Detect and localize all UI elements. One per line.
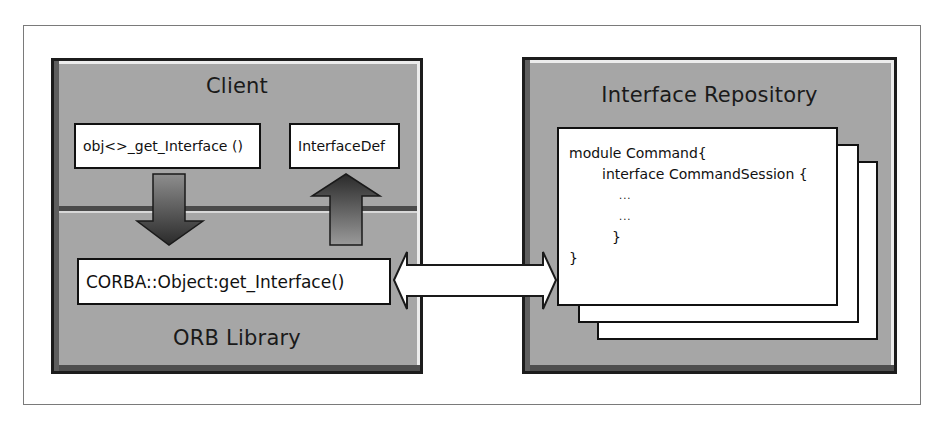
- code-line: ...: [569, 185, 836, 206]
- corba-object-box: CORBA::Object:get_Interface(): [77, 258, 391, 305]
- interface-def-box: InterfaceDef: [289, 123, 400, 169]
- interface-repository-panel: Interface Repository module Command{ int…: [522, 57, 897, 374]
- code-line: module Command{: [569, 143, 836, 164]
- get-interface-call-box: obj<>_get_Interface (): [74, 123, 261, 169]
- code-line: }: [569, 248, 836, 269]
- client-panel: Client obj<>_get_Interface () InterfaceD…: [51, 58, 423, 374]
- idl-page-front: module Command{ interface CommandSession…: [557, 127, 838, 306]
- interface-repository-title: Interface Repository: [525, 83, 894, 107]
- client-orb-divider: [59, 206, 417, 213]
- client-title: Client: [54, 74, 420, 98]
- code-line: ...: [569, 206, 836, 227]
- orb-library-title: ORB Library: [54, 326, 420, 350]
- code-line: interface CommandSession {: [569, 164, 836, 185]
- code-line: }: [569, 227, 836, 248]
